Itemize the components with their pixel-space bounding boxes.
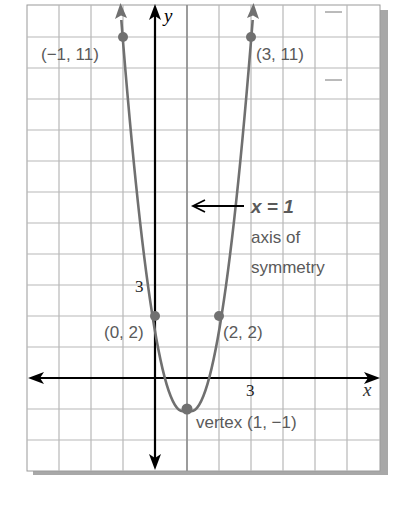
vertex-point xyxy=(182,404,193,415)
point-label-3-11: (3, 11) xyxy=(256,45,304,64)
aos-text-line2: symmetry xyxy=(251,258,325,277)
point-3-11 xyxy=(246,32,256,42)
y-axis-label: y xyxy=(162,5,173,26)
graph-figure: y x 3 3 (−1, 11) (3, 11) (0, 2) (2, 2) v… xyxy=(0,0,396,505)
point-2-2 xyxy=(214,311,224,321)
aos-equation: x = 1 xyxy=(250,196,294,217)
point-label-0-2: (0, 2) xyxy=(104,323,144,342)
aos-text-line1: axis of xyxy=(251,228,300,247)
vertex-label: vertex (1, −1) xyxy=(196,413,297,432)
point-neg1-11 xyxy=(118,32,128,42)
grid-panel xyxy=(27,5,380,471)
x-axis-label: x xyxy=(362,379,372,400)
point-0-2 xyxy=(150,311,160,321)
y-tick-label: 3 xyxy=(135,277,144,296)
x-tick-label: 3 xyxy=(246,381,255,400)
point-label-2-2: (2, 2) xyxy=(223,323,263,342)
point-label-neg1-11: (−1, 11) xyxy=(41,45,99,64)
